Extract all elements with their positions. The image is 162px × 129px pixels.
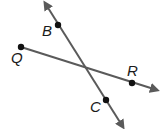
label-q: Q (11, 49, 23, 66)
geometry-diagram: BQRC (0, 0, 162, 129)
label-b: B (42, 22, 52, 39)
point-c (103, 97, 109, 103)
line-bc (45, 3, 123, 127)
point-r (129, 80, 135, 86)
point-b (55, 22, 61, 28)
label-c: C (90, 98, 101, 115)
label-r: R (127, 62, 138, 79)
